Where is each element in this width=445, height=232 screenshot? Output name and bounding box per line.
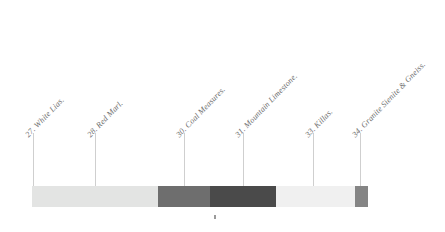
strata-segment-coal-measures: [158, 186, 210, 207]
strata-segment-mountain-limestone: [210, 186, 276, 207]
strata-label-31-mountain-limestone: 31. Mountain Limestone.: [234, 72, 299, 139]
leader-line-28-red-marl: [95, 133, 96, 186]
strata-label-30-coal-measures: 30. Coal Measures.: [175, 86, 227, 140]
strata-label-28-red-marl: 28. Red Marl.: [86, 99, 125, 139]
leader-line-33-killas: [313, 133, 314, 186]
bar-center-tick: [214, 215, 216, 219]
leader-line-34-granite-sienite-gneiss: [360, 133, 361, 186]
strata-segment-white-lias: [32, 186, 158, 207]
strata-label-33-killas: 33. Killas.: [304, 108, 335, 139]
leader-line-27-white-lias: [33, 133, 34, 186]
strata-segment-killas: [276, 186, 355, 207]
strata-color-bar: [32, 186, 368, 207]
leader-line-31-mountain-limestone: [243, 133, 244, 186]
strata-label-27-white-lias: 27. White Lias.: [24, 96, 66, 139]
leader-line-30-coal-measures: [184, 133, 185, 186]
strata-label-34-granite-sienite-gneiss: 34. Granite Sienite & Gneiss.: [351, 61, 427, 140]
stratigraphic-diagram: 27. White Lias. 28. Red Marl. 30. Coal M…: [0, 0, 445, 232]
strata-segment-granite-sienite-gneiss: [355, 186, 368, 207]
